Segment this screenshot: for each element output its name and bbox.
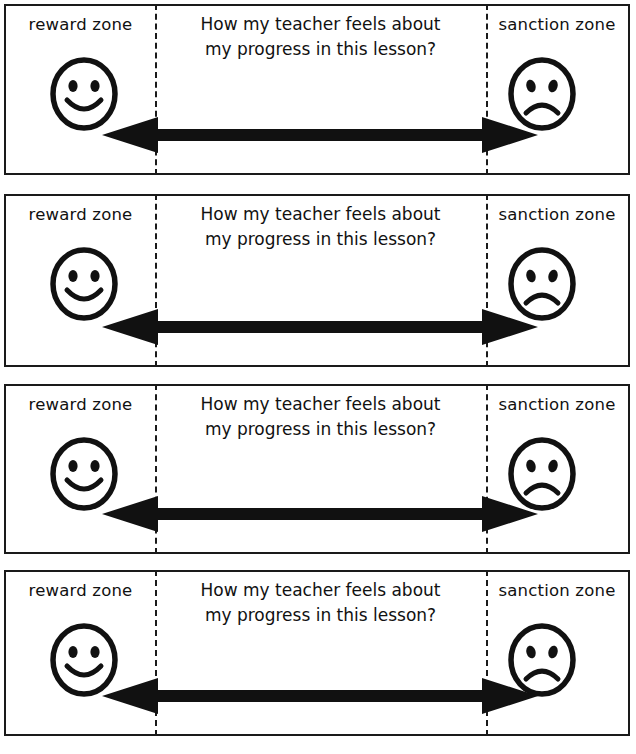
bidirectional-arrow-icon (102, 307, 538, 351)
question-text: How my teacher feels about my progress i… (155, 202, 486, 252)
question-text: How my teacher feels about my progress i… (155, 12, 486, 62)
question-line-1: How my teacher feels about (155, 578, 486, 603)
question-line-2: my progress in this lesson? (155, 603, 486, 628)
reward-zone-label: reward zone (6, 15, 155, 34)
sanction-zone-label: sanction zone (486, 581, 628, 600)
sanction-zone-label: sanction zone (486, 15, 628, 34)
question-line-2: my progress in this lesson? (155, 417, 486, 442)
question-line-1: How my teacher feels about (155, 202, 486, 227)
rating-strip-panel: reward zone sanction zone How my teacher… (4, 570, 630, 736)
rating-strip-panel: reward zone sanction zone How my teacher… (4, 384, 630, 554)
sanction-zone-label: sanction zone (486, 205, 628, 224)
bidirectional-arrow-icon (102, 115, 538, 159)
question-text: How my teacher feels about my progress i… (155, 578, 486, 628)
bidirectional-arrow-icon (102, 676, 538, 720)
reward-zone-label: reward zone (6, 581, 155, 600)
rating-strip-panel: reward zone sanction zone How my teacher… (4, 194, 630, 367)
question-line-1: How my teacher feels about (155, 392, 486, 417)
bidirectional-arrow-icon (102, 494, 538, 538)
question-line-2: my progress in this lesson? (155, 227, 486, 252)
reward-zone-label: reward zone (6, 395, 155, 414)
worksheet-page: reward zone sanction zone How my teacher… (0, 0, 636, 754)
question-line-2: my progress in this lesson? (155, 37, 486, 62)
rating-strip-panel: reward zone sanction zone How my teacher… (4, 4, 630, 175)
reward-zone-label: reward zone (6, 205, 155, 224)
question-line-1: How my teacher feels about (155, 12, 486, 37)
sanction-zone-label: sanction zone (486, 395, 628, 414)
question-text: How my teacher feels about my progress i… (155, 392, 486, 442)
